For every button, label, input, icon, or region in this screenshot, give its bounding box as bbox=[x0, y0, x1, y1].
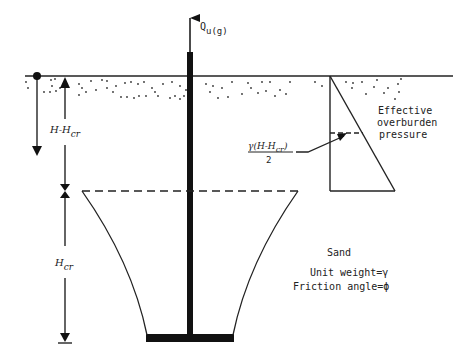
average-pressure-leader-head bbox=[337, 133, 347, 141]
depth-label-lower: Hcr bbox=[54, 257, 74, 272]
dim-upper-bottom-arrowhead bbox=[60, 184, 70, 191]
uplift-load-label: Qu(g) bbox=[200, 21, 228, 36]
average-pressure-denominator: 2 bbox=[266, 155, 271, 165]
depth-arrow-left-head bbox=[32, 146, 42, 156]
sand-stipple bbox=[25, 78, 402, 100]
pressure-label-line-2: overburden bbox=[377, 117, 437, 128]
friction-angle-label: Friction angle=ϕ bbox=[293, 281, 389, 292]
pile-shaft bbox=[187, 52, 193, 338]
soil-label: Sand bbox=[327, 247, 351, 258]
pressure-label-line-1: Effective bbox=[378, 105, 432, 116]
failure-surface-left bbox=[82, 191, 147, 335]
average-pressure-leader bbox=[296, 136, 344, 152]
unit-weight-label: Unit weight=γ bbox=[310, 267, 388, 278]
failure-surface-right bbox=[233, 191, 298, 335]
pressure-label-line-3: pressure bbox=[379, 129, 427, 140]
anchor-base-plate bbox=[146, 334, 234, 342]
dim-lower-bottom-arrowhead bbox=[60, 333, 70, 342]
anchor-pile-diagram: Qu(g) H-Hcr Hcr Effective overburden pre… bbox=[0, 0, 453, 364]
depth-label-upper: H-Hcr bbox=[49, 124, 81, 139]
